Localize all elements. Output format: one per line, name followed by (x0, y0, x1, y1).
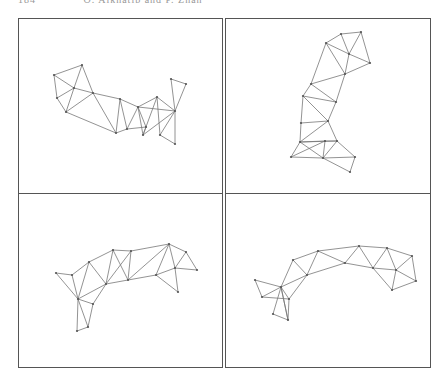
mesh-edge (120, 99, 127, 129)
mesh-vertex (65, 111, 67, 113)
mesh-edge (57, 98, 66, 112)
mesh-vertex (55, 272, 57, 274)
mesh-edge (311, 74, 345, 84)
mesh-vertex (302, 95, 304, 97)
mesh-edge (113, 250, 128, 280)
mesh-vertex (56, 97, 58, 99)
mesh-edge (138, 107, 175, 111)
mesh-edge (160, 135, 175, 144)
mesh-vertex (344, 262, 346, 264)
mesh-vertex (112, 249, 114, 251)
mesh-edge (328, 121, 337, 141)
mesh-edge (288, 299, 289, 320)
mesh-edge (157, 97, 160, 135)
mesh-edge (116, 99, 120, 133)
mesh-vertex (391, 289, 393, 291)
mesh-vertex (280, 286, 282, 288)
mesh-edge (82, 65, 93, 93)
mesh-vertex (53, 74, 55, 76)
mesh-edge (300, 123, 301, 142)
mesh-edge (54, 75, 74, 88)
mesh-edge (156, 275, 178, 292)
mesh-edge (77, 299, 78, 331)
mesh-edge (361, 32, 370, 63)
mesh-edge (78, 299, 93, 304)
mesh-vertex (77, 298, 79, 300)
mesh-vertex (137, 106, 139, 108)
mesh-edge (131, 244, 169, 251)
mesh-vertex (196, 269, 198, 271)
mesh-edge (157, 97, 175, 111)
mesh-edge (373, 268, 396, 270)
mesh-edge (255, 280, 281, 287)
mesh-edge (300, 142, 323, 158)
mesh-vertex (340, 33, 342, 35)
mesh-edge (345, 63, 370, 74)
mesh-vertex (81, 64, 83, 66)
mesh-edge (54, 75, 57, 98)
mesh-edge (66, 112, 116, 133)
mesh-edge (323, 158, 350, 172)
mesh-edge (349, 32, 361, 54)
mesh-vertex (411, 255, 413, 257)
mesh-vertex (254, 279, 256, 281)
mesh-vertex (105, 283, 107, 285)
mesh-edge (88, 304, 93, 327)
mesh-edge (289, 275, 307, 299)
mesh-vertex (322, 157, 324, 159)
mesh-vertex (174, 267, 176, 269)
mesh-edge (128, 244, 169, 280)
mesh-vertex (142, 134, 144, 136)
mesh-edge (359, 246, 373, 268)
mesh-vertex (348, 53, 350, 55)
mesh-edge (349, 54, 370, 63)
mesh-vertex (177, 291, 179, 293)
mesh-edge (341, 32, 361, 34)
mesh-edge (345, 246, 359, 263)
mesh-vertex (317, 250, 319, 252)
mesh-edge (318, 246, 359, 251)
mesh-edge (66, 93, 93, 112)
mesh-vertex (71, 274, 73, 276)
mesh-edge (128, 275, 156, 280)
mesh-edge (301, 121, 328, 123)
mesh-edge (138, 107, 143, 135)
mesh-edge (89, 262, 106, 284)
mesh-edge (78, 299, 88, 327)
mesh-vertex (174, 110, 176, 112)
mesh-edge (255, 280, 262, 297)
mesh-vertex (325, 42, 327, 44)
mesh-edge (138, 107, 146, 127)
mesh-figure (0, 0, 444, 379)
mesh-vertex (130, 250, 132, 252)
mesh-vertex (287, 319, 289, 321)
mesh-vertex (185, 83, 187, 85)
mesh-edge (78, 262, 89, 299)
mesh-edge (169, 244, 175, 268)
mesh-edge (273, 287, 281, 314)
mesh-vertex (168, 243, 170, 245)
mesh-edge (303, 84, 311, 96)
mesh-edge (323, 157, 355, 158)
mesh-vertex (358, 245, 360, 247)
mesh-vertex (170, 78, 172, 80)
mesh-vertex (299, 141, 301, 143)
mesh-edge (93, 284, 106, 304)
mesh-edge (336, 74, 345, 102)
mesh-vertex (300, 122, 302, 124)
mesh-edge (74, 65, 82, 88)
mesh-vertex (159, 134, 161, 136)
mesh-edge (113, 250, 131, 251)
mesh-edge (307, 263, 345, 275)
mesh-edge (273, 314, 288, 320)
mesh-vertex (88, 261, 90, 263)
mesh-edge (291, 157, 323, 158)
mesh-edge (89, 250, 113, 262)
mesh-vertex (336, 140, 338, 142)
mesh-edge (72, 262, 89, 275)
mesh-vertex (324, 140, 326, 142)
mesh-edge (350, 157, 355, 172)
mesh-edge (77, 327, 88, 331)
mesh-edge (318, 251, 345, 263)
mesh-edge (293, 260, 307, 275)
